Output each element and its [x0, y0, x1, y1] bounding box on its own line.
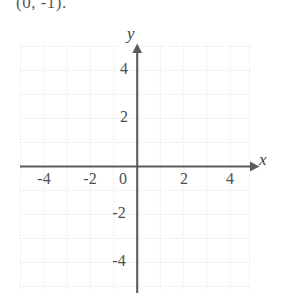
x-axis-label: x: [259, 150, 267, 170]
x-tick-label-neg2: -2: [79, 170, 101, 188]
grid-vertical-lines: [21, 45, 250, 291]
y-tick-label-neg4: -4: [104, 252, 134, 270]
x-tick-label-2: 2: [174, 170, 194, 188]
x-tick-label-4: 4: [220, 170, 240, 188]
y-tick-label-4: 4: [114, 60, 134, 78]
coordinate-plane: [0, 0, 285, 297]
graph-figure: (0, -1).: [0, 0, 285, 297]
y-tick-label-neg2: -2: [104, 204, 134, 222]
x-tick-label-neg4: -4: [33, 170, 55, 188]
y-axis-label: y: [127, 24, 135, 44]
y-axis-arrowhead: [132, 44, 142, 54]
y-tick-label-2: 2: [114, 108, 134, 126]
origin-tick-label: 0: [113, 170, 133, 188]
